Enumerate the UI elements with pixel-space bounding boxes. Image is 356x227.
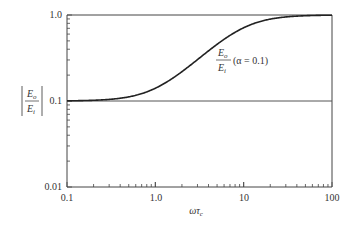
curve-annotation: Eo Ei (α = 0.1) <box>216 47 268 75</box>
y-axis-label: Eo Ei <box>22 86 42 116</box>
svg-text:Ei: Ei <box>26 103 35 116</box>
y-tick-1.0: 1.0 <box>50 9 63 20</box>
svg-text:Eo: Eo <box>26 88 37 101</box>
bode-magnitude-chart: 1.0 0.1 0.01 0.1 1.0 10 100 ωτc Eo Ei Eo… <box>0 0 356 227</box>
x-tick-0.1: 0.1 <box>61 192 74 203</box>
svg-text:(α = 0.1): (α = 0.1) <box>233 55 268 67</box>
y-tick-0.1: 0.1 <box>50 95 63 106</box>
x-tick-10: 10 <box>239 192 249 203</box>
svg-text:Eo: Eo <box>217 47 228 60</box>
svg-text:Ei: Ei <box>217 62 226 75</box>
x-tick-1.0: 1.0 <box>150 192 163 203</box>
response-curve <box>67 15 332 101</box>
svg-text:ωτc: ωτc <box>189 205 204 218</box>
x-axis-label: ωτc <box>189 205 204 218</box>
y-tick-0.01: 0.01 <box>45 181 63 192</box>
x-tick-100: 100 <box>325 192 340 203</box>
